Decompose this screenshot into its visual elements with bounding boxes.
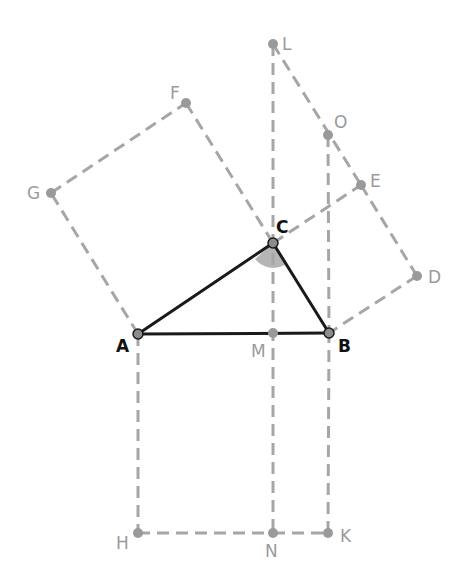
segment-GF [51, 103, 186, 193]
segment-OB [328, 135, 329, 333]
label-C: C [276, 217, 288, 237]
label-N: N [265, 541, 278, 561]
label-M: M [251, 341, 266, 361]
side-CA [138, 243, 273, 334]
point-N[interactable] [268, 528, 278, 538]
point-H[interactable] [133, 528, 143, 538]
label-B: B [338, 336, 351, 356]
segment-DB [329, 276, 417, 333]
point-K[interactable] [323, 528, 333, 538]
dashed-lines [51, 44, 417, 533]
triangle-ABC [138, 243, 329, 334]
point-O[interactable] [323, 130, 333, 140]
segment-AG [51, 193, 138, 334]
point-C[interactable] [268, 238, 278, 248]
side-AB [138, 333, 329, 334]
label-K: K [340, 526, 352, 546]
segment-KB [328, 333, 329, 533]
label-E: E [370, 171, 381, 191]
point-G[interactable] [46, 188, 56, 198]
side-BC [273, 243, 329, 333]
segment-FC [186, 103, 273, 243]
label-H: H [116, 533, 129, 553]
point-E[interactable] [356, 180, 366, 190]
point-A[interactable] [133, 329, 143, 339]
point-D[interactable] [412, 271, 422, 281]
label-G: G [27, 183, 40, 203]
label-D: D [428, 267, 441, 287]
main-points [133, 238, 334, 339]
label-F: F [170, 83, 180, 103]
point-B[interactable] [324, 328, 334, 338]
point-L[interactable] [268, 39, 278, 49]
point-M[interactable] [268, 328, 278, 338]
label-O: O [334, 112, 347, 132]
geometry-diagram: A B C D E F G H K L M N O [0, 0, 470, 588]
aux-points [46, 39, 422, 538]
segment-LE [273, 44, 361, 185]
label-A: A [116, 336, 130, 356]
labels: A B C D E F G H K L M N O [27, 34, 441, 561]
label-L: L [282, 34, 292, 54]
segment-ED [361, 185, 417, 276]
point-F[interactable] [181, 98, 191, 108]
